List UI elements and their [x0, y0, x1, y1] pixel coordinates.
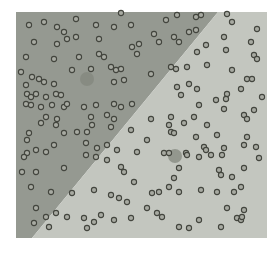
data-point [43, 94, 48, 99]
data-point [249, 76, 254, 81]
data-point [191, 114, 196, 119]
data-point [104, 157, 109, 162]
data-point [219, 152, 224, 157]
data-point [244, 134, 249, 139]
data-point [128, 215, 133, 220]
data-point [26, 22, 31, 27]
data-point [64, 214, 69, 219]
data-point [218, 224, 223, 229]
data-point [176, 165, 181, 170]
data-point [128, 127, 133, 132]
data-point [238, 86, 243, 91]
data-point [93, 22, 98, 27]
data-point [254, 26, 259, 31]
data-point [33, 205, 38, 210]
data-point [171, 130, 176, 135]
data-point [229, 19, 234, 24]
data-point [178, 92, 183, 97]
data-point [53, 91, 58, 96]
data-point [194, 49, 199, 54]
data-point [156, 39, 161, 44]
data-point [186, 29, 191, 34]
data-point [168, 64, 173, 69]
data-point [108, 124, 113, 129]
data-point [241, 142, 246, 147]
data-point [174, 84, 179, 89]
data-point [161, 150, 166, 155]
data-point [166, 184, 171, 189]
data-point [128, 22, 133, 27]
data-point [84, 225, 89, 230]
data-point [174, 12, 179, 17]
data-point [221, 145, 226, 150]
data-point [144, 137, 149, 142]
data-point [104, 112, 109, 117]
data-point [64, 36, 69, 41]
data-point [204, 62, 209, 67]
data-point [88, 66, 93, 71]
data-point [108, 192, 113, 197]
data-point [124, 199, 129, 204]
data-point [203, 42, 208, 47]
data-point [28, 94, 33, 99]
data-point [94, 145, 99, 150]
data-point [69, 67, 74, 72]
data-point [176, 189, 181, 194]
data-point [54, 24, 59, 29]
data-point [204, 122, 209, 127]
data-point [76, 54, 81, 59]
data-point [91, 219, 96, 224]
data-point [181, 120, 186, 125]
data-point [46, 224, 51, 229]
data-point [111, 79, 116, 84]
data-point [198, 12, 203, 17]
data-point [244, 116, 249, 121]
data-point [61, 29, 66, 34]
data-point [41, 79, 46, 84]
data-point [91, 187, 96, 192]
data-point [111, 24, 116, 29]
data-point [129, 44, 134, 49]
data-point [221, 34, 226, 39]
data-point [43, 114, 48, 119]
data-point [51, 142, 56, 147]
data-point [134, 149, 139, 154]
data-point [38, 104, 43, 109]
data-point [198, 187, 203, 192]
data-point [254, 56, 259, 61]
data-point [23, 54, 28, 59]
data-point [224, 91, 229, 96]
data-point [176, 224, 181, 229]
data-point [136, 41, 141, 46]
data-point [23, 82, 28, 87]
data-point [41, 19, 46, 24]
data-point [166, 122, 171, 127]
data-point [241, 165, 246, 170]
data-point [238, 184, 243, 189]
data-point [244, 76, 249, 81]
data-point [121, 77, 126, 82]
data-point [33, 147, 38, 152]
data-point [196, 154, 201, 159]
data-point [144, 205, 149, 210]
data-point [214, 189, 219, 194]
data-point [28, 102, 33, 107]
data-point [29, 74, 34, 79]
data-point [168, 114, 173, 119]
data-point [89, 122, 94, 127]
data-point [31, 39, 36, 44]
data-point [176, 39, 181, 44]
data-point [54, 116, 59, 121]
data-point [241, 207, 246, 212]
data-point [73, 16, 78, 21]
data-point [166, 150, 171, 155]
data-point [118, 104, 123, 109]
data-point [49, 102, 54, 107]
data-point [259, 94, 264, 99]
data-point [208, 152, 213, 157]
data-point [96, 51, 101, 56]
data-point [114, 147, 119, 152]
data-point [229, 67, 234, 72]
data-point [104, 142, 109, 147]
data-point [93, 102, 98, 107]
